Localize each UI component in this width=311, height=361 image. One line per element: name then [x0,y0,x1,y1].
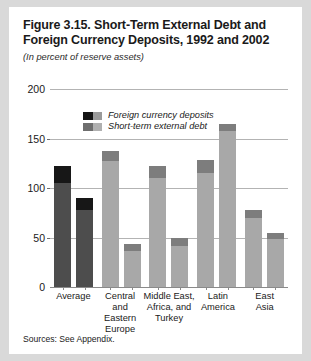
bar-segment-debt [245,218,262,287]
bar-2002 [219,124,236,287]
legend-label-deposits: Foreign currency deposits [108,111,214,120]
bar-segment-deposits [245,210,262,218]
bar-segment-debt [219,131,236,287]
bar-1992 [54,166,71,287]
figure-header: Figure 3.15. Short-Term External Debt an… [9,7,302,62]
figure-panel: Figure 3.15. Short-Term External Debt an… [9,7,302,354]
bar-2002 [124,244,141,287]
plot-panel: 050100150200 Foreign currency deposits S… [23,77,288,335]
bar-1992 [197,160,214,287]
bar-2002 [267,233,284,287]
bar-segment-deposits [124,244,141,251]
x-axis-tickmark [132,287,133,290]
x-axis-labels: AverageCentralandEasternEuropeMiddle Eas… [50,287,288,335]
x-axis-label-average: Average [50,287,97,335]
y-axis-tick-50: 50 [33,232,45,243]
x-axis-tickmark [158,287,159,290]
bar-segment-deposits [76,198,93,210]
bar-segment-debt [267,239,284,287]
bar-segment-debt [54,183,71,287]
bar-segment-deposits [171,238,188,247]
bar-segment-deposits [102,151,119,161]
x-axis-tickmark [206,287,207,290]
plot-area: 050100150200 Foreign currency deposits S… [50,89,288,287]
bar-segment-deposits [197,160,214,173]
bar-segment-debt [124,251,141,287]
figure-title: Figure 3.15. Short-Term External Debt an… [23,18,288,49]
bar-segment-debt [197,173,214,287]
x-axis-tickmark [110,287,111,290]
figure-subtitle: (In percent of reserve assets) [23,52,288,62]
x-axis-label-central-and-eastern-europe: CentralandEasternEurope [97,287,144,335]
x-axis-label-latin-america: LatinAmerica [195,287,242,335]
y-axis-tick-100: 100 [27,183,45,194]
source-note: Sources: See Appendix. [23,334,115,344]
x-axis-tickmark [228,287,229,290]
bar-group-east-asia [240,89,288,287]
legend-item-deposits: Foreign currency deposits [83,111,214,120]
x-axis-tickmark [275,287,276,290]
x-axis-tickmark [253,287,254,290]
bar-segment-debt [149,178,166,287]
legend-item-debt: Short-term external debt [83,122,214,131]
y-axis-tick-150: 150 [27,133,45,144]
bar-segment-debt [76,210,93,287]
x-axis-tickmark [63,287,64,290]
x-axis-tickmark [85,287,86,290]
y-axis-tick-200: 200 [27,84,45,95]
chart-legend: Foreign currency deposits Short-term ext… [83,111,214,133]
bar-segment-debt [102,161,119,287]
bar-segment-deposits [149,166,166,178]
legend-swatch-debt [83,123,102,131]
x-axis-label-east-asia: EastAsia [241,287,288,335]
legend-swatch-deposits [83,112,102,120]
bar-2002 [76,198,93,287]
bar-2002 [171,238,188,288]
bar-1992 [149,166,166,287]
bar-segment-debt [171,246,188,287]
x-axis-tickmark [180,287,181,290]
bar-segment-deposits [54,166,71,183]
bar-1992 [102,151,119,287]
bar-segment-deposits [219,124,236,131]
y-axis-tick-0: 0 [39,282,45,293]
x-axis-label-middle-east-africa-and-turkey: Middle East,Africa, andTurkey [143,287,194,335]
legend-label-debt: Short-term external debt [108,122,207,131]
bar-1992 [245,210,262,287]
